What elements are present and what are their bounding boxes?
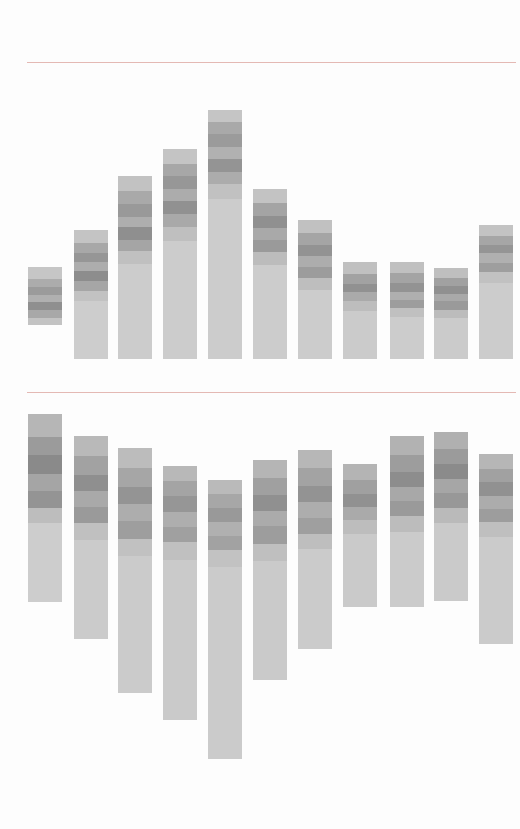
bar-segment [163, 176, 197, 189]
bar-segment [298, 245, 332, 256]
bar-segment [163, 466, 197, 481]
bar-segment [479, 283, 513, 359]
top-bar-97 [298, 220, 332, 359]
bar-segment [390, 487, 424, 501]
top-bar-93 [118, 176, 152, 359]
top-chart [0, 62, 520, 372]
bar-segment [343, 480, 377, 494]
bar-segment [298, 486, 332, 502]
bar-segment [343, 301, 377, 311]
bar-segment [434, 294, 468, 301]
bar-segment [163, 542, 197, 560]
bar-segment [118, 227, 152, 240]
bar-segment [253, 526, 287, 544]
bar-segment [253, 544, 287, 562]
bar-segment [390, 472, 424, 487]
bar-segment [390, 532, 424, 607]
top-bar-96 [253, 189, 287, 359]
bar-segment [343, 494, 377, 507]
bar-segment [28, 295, 62, 302]
bar-segment [163, 149, 197, 164]
bar-segment [298, 220, 332, 232]
bar-segment [434, 479, 468, 493]
top-bar-00 [434, 268, 468, 359]
bar-segment [479, 482, 513, 495]
bar-segment [253, 189, 287, 203]
bar-segment [28, 455, 62, 474]
bar-segment [118, 251, 152, 264]
bar-segment [28, 437, 62, 456]
top-bar-91 [28, 267, 62, 359]
bar-segment [434, 508, 468, 523]
bar-segment [208, 184, 242, 199]
bottom-bar-94 [163, 466, 197, 720]
bottom-bar-98 [343, 464, 377, 607]
bar-segment [163, 201, 197, 214]
bar-segment [163, 164, 197, 177]
bar-segment [434, 310, 468, 318]
bar-segment [479, 522, 513, 537]
bar-segment [118, 176, 152, 191]
bar-segment [390, 283, 424, 292]
bar-segment [298, 502, 332, 518]
bar-segment [163, 214, 197, 227]
bar-segment [208, 134, 242, 146]
bar-segment [163, 560, 197, 720]
bar-segment [163, 481, 197, 496]
bar-segment [118, 521, 152, 538]
bar-segment [390, 300, 424, 309]
bar-segment [479, 236, 513, 245]
bar-segment [28, 491, 62, 508]
bar-segment [253, 460, 287, 478]
bar-segment [74, 243, 108, 253]
bottom-zero-axis [27, 392, 516, 393]
bar-segment [253, 511, 287, 526]
bar-segment [298, 278, 332, 289]
bar-segment [118, 556, 152, 693]
top-bar-01 [479, 225, 513, 359]
bar-segment [28, 325, 62, 359]
bar-segment [343, 292, 377, 301]
bar-segment [28, 302, 62, 310]
bar-segment [118, 191, 152, 204]
bar-segment [74, 262, 108, 271]
top-bar-92 [74, 230, 108, 359]
bar-segment [163, 496, 197, 511]
bar-segment [118, 264, 152, 359]
bar-segment [118, 240, 152, 251]
bar-segment [298, 468, 332, 486]
bar-segment [298, 534, 332, 550]
bar-segment [479, 225, 513, 236]
bar-segment [479, 509, 513, 522]
bar-segment [479, 454, 513, 469]
bar-segment [163, 241, 197, 359]
bar-segment [208, 508, 242, 522]
bar-segment [118, 217, 152, 228]
bar-segment [479, 253, 513, 262]
bar-segment [434, 523, 468, 601]
bar-segment [298, 290, 332, 359]
bar-segment [74, 491, 108, 507]
bar-segment [74, 507, 108, 523]
bar-segment [28, 414, 62, 437]
bar-segment [208, 536, 242, 550]
bar-segment [390, 455, 424, 472]
bar-segment [74, 253, 108, 262]
top-bar-94 [163, 149, 197, 359]
bar-segment [253, 228, 287, 240]
year-header [0, 14, 520, 60]
bar-segment [208, 122, 242, 134]
bar-segment [74, 271, 108, 281]
bar-segment [28, 474, 62, 491]
bar-segment [118, 539, 152, 556]
bar-segment [118, 487, 152, 504]
bar-segment [390, 308, 424, 317]
bar-segment [343, 534, 377, 607]
bottom-bar-01 [479, 454, 513, 644]
bar-segment [479, 469, 513, 482]
top-bar-99 [390, 262, 424, 359]
bar-segment [163, 227, 197, 242]
bar-segment [74, 301, 108, 359]
bar-segment [74, 456, 108, 474]
bar-segment [118, 204, 152, 217]
